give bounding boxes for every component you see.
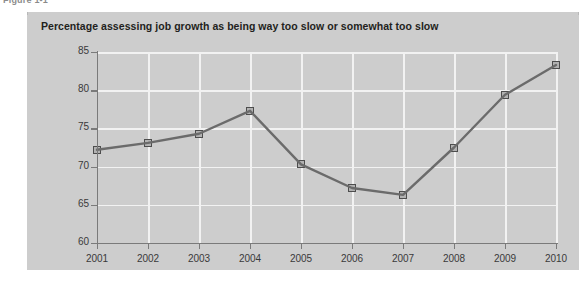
x-tick-mark-2008 bbox=[454, 243, 455, 249]
x-tick-label-2007: 2007 bbox=[381, 253, 425, 264]
x-tick-label-2005: 2005 bbox=[279, 253, 323, 264]
x-tick-mark-2009 bbox=[505, 243, 506, 249]
y-tick-mark-85 bbox=[91, 52, 97, 53]
y-tick-label-75: 75 bbox=[63, 121, 89, 132]
x-tick-label-2010: 2010 bbox=[534, 253, 578, 264]
figure-page: Figure 1-1 Percentage assessing job grow… bbox=[0, 0, 583, 282]
x-tick-mark-2005 bbox=[301, 243, 302, 249]
x-axis-line bbox=[97, 243, 558, 244]
x-tick-mark-2003 bbox=[199, 243, 200, 249]
x-tick-label-2002: 2002 bbox=[126, 253, 170, 264]
y-tick-mark-75 bbox=[91, 128, 97, 129]
y-axis-labels: 606570758085 bbox=[57, 15, 89, 270]
x-tick-mark-2002 bbox=[148, 243, 149, 249]
x-tick-mark-2006 bbox=[352, 243, 353, 249]
figure-caption: Figure 1-1 bbox=[3, 0, 48, 5]
x-tick-mark-2004 bbox=[250, 243, 251, 249]
x-tick-label-2009: 2009 bbox=[483, 253, 527, 264]
x-tick-label-2004: 2004 bbox=[228, 253, 272, 264]
series-line bbox=[27, 15, 579, 270]
figure-caption-strip: Figure 1-1 bbox=[0, 0, 583, 11]
y-tick-label-70: 70 bbox=[63, 160, 89, 171]
y-tick-label-85: 85 bbox=[63, 45, 89, 56]
x-tick-label-2008: 2008 bbox=[432, 253, 476, 264]
x-tick-label-2001: 2001 bbox=[75, 253, 119, 264]
x-tick-label-2006: 2006 bbox=[330, 253, 374, 264]
y-tick-mark-80 bbox=[91, 90, 97, 91]
x-tick-mark-2007 bbox=[403, 243, 404, 249]
chart-panel: Percentage assessing job growth as being… bbox=[27, 15, 579, 270]
x-tick-label-2003: 2003 bbox=[177, 253, 221, 264]
y-axis-line bbox=[97, 51, 98, 245]
y-tick-label-60: 60 bbox=[63, 236, 89, 247]
x-tick-mark-2001 bbox=[97, 243, 98, 249]
y-tick-mark-65 bbox=[91, 205, 97, 206]
y-tick-label-80: 80 bbox=[63, 83, 89, 94]
x-tick-mark-2010 bbox=[556, 243, 557, 249]
y-tick-label-65: 65 bbox=[63, 198, 89, 209]
y-tick-mark-70 bbox=[91, 167, 97, 168]
